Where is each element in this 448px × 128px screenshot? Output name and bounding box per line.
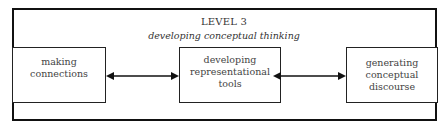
bidirectional-arrow-2 [273, 72, 346, 80]
connector-arrows [0, 0, 448, 128]
bidirectional-arrow-1 [106, 72, 179, 80]
